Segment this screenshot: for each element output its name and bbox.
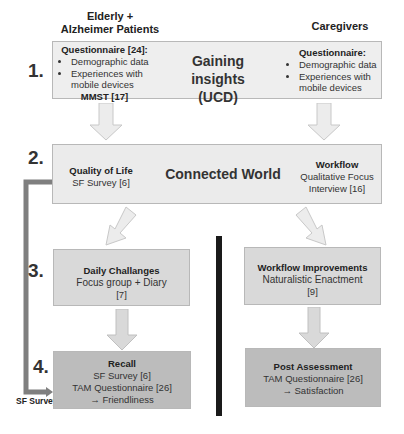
bullet-item: Demographic data	[299, 59, 380, 71]
step-number-2: 2.	[28, 147, 44, 169]
diagonal-arrow-left	[98, 205, 140, 247]
step1-title-line2: (UCD)	[168, 88, 268, 106]
down-arrow-left-3	[105, 309, 139, 351]
step-number-4: 4.	[33, 356, 49, 378]
step4-right-line2: → Satisfaction	[246, 385, 380, 397]
right-column-header: Caregivers	[300, 20, 380, 33]
step1-right-block: Questionnaire: Demographic data Experien…	[285, 47, 380, 94]
step3-right-box: Workflow Improvements Naturalistic Enact…	[244, 247, 381, 305]
step3-right-line2: [9]	[245, 286, 380, 298]
feedback-label: SF Survey	[16, 396, 58, 406]
step3-left-title: Daily Challanges	[54, 265, 189, 277]
step1-left-footer: MMST [17]	[57, 91, 152, 103]
step4-left-box: Recall SF Survey [6] TAM Questionnaire […	[53, 351, 191, 409]
down-arrow-right-1	[306, 103, 342, 141]
step4-right-line1: TAM Questionnaire [26]	[246, 373, 380, 385]
step2-box: Quality of Life SF Survey [6] Connected …	[52, 144, 382, 204]
step2-left-block: Quality of Life SF Survey [6]	[61, 165, 141, 189]
step3-right-title: Workflow Improvements	[245, 262, 380, 274]
step1-left-bullets: Demographic data Experiences with mobile…	[57, 56, 152, 91]
step1-left-title: Questionnaire [24]:	[57, 44, 152, 56]
column-divider	[216, 236, 222, 416]
step2-left-title: Quality of Life	[61, 165, 141, 177]
step1-center-title: Gaining insights (UCD)	[168, 52, 268, 106]
left-column-header: Elderly + Alzheimer Patients	[60, 10, 160, 36]
down-arrow-right-3	[297, 307, 331, 349]
step2-right-line2: Interview [16]	[293, 183, 381, 195]
bullet-item: Experiences with mobile devices	[299, 71, 380, 94]
step4-left-line2: TAM Questionnaire [26]	[54, 382, 190, 394]
step4-right-title: Post Assessment	[246, 361, 380, 373]
step1-right-bullets: Demographic data Experiences with mobile…	[285, 59, 380, 94]
bullet-item: Experiences with mobile devices	[71, 68, 152, 91]
step1-right-title: Questionnaire:	[285, 47, 380, 59]
step2-center-title: Connected World	[153, 165, 293, 183]
bullet-item: Demographic data	[71, 56, 152, 68]
step3-left-box: Daily Challanges Focus group + Diary [7]	[53, 249, 190, 306]
down-arrow-left-1	[88, 103, 124, 141]
step2-right-title: Workflow	[293, 159, 381, 171]
step3-left-line1: Focus group + Diary	[54, 277, 189, 289]
step1-title-line1: Gaining insights	[168, 52, 268, 88]
step2-right-line1: Qualitative Focus	[293, 171, 381, 183]
diagonal-arrow-right	[292, 205, 334, 247]
step-number-3: 3.	[28, 260, 44, 282]
step3-right-line1: Naturalistic Enactment	[245, 274, 380, 286]
step4-right-box: Post Assessment TAM Questionnaire [26] →…	[245, 348, 381, 407]
step4-left-line3: → Friendliness	[54, 394, 190, 406]
step3-left-line2: [7]	[54, 289, 189, 301]
step2-left-line1: SF Survey [6]	[61, 177, 141, 189]
step4-left-line1: SF Survey [6]	[54, 370, 190, 382]
step-number-1: 1.	[28, 60, 44, 82]
step2-right-block: Workflow Qualitative Focus Interview [16…	[293, 159, 381, 195]
step1-left-block: Questionnaire [24]: Demographic data Exp…	[57, 44, 152, 103]
step4-left-title: Recall	[54, 358, 190, 370]
step1-box: Questionnaire [24]: Demographic data Exp…	[52, 41, 382, 99]
